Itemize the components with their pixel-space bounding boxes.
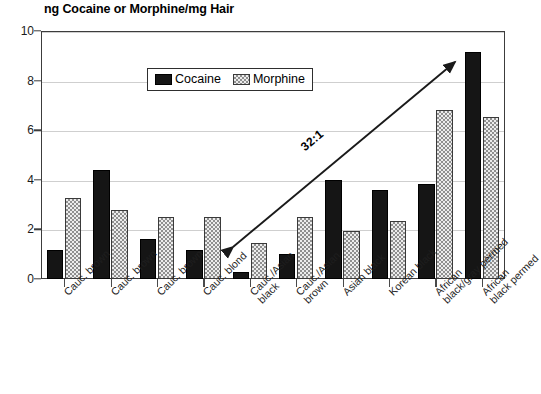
y-axis-tick-mark bbox=[34, 229, 41, 230]
y-axis-tick-mark bbox=[34, 278, 41, 279]
y-axis-tick-label: 0 bbox=[8, 272, 34, 286]
legend-item-cocaine: Cocaine bbox=[155, 72, 221, 86]
bar-cocaine-4 bbox=[233, 272, 250, 279]
bar-morphine-2 bbox=[158, 217, 175, 279]
legend-item-morphine: Morphine bbox=[233, 72, 305, 86]
y-axis-tick-label: 10 bbox=[8, 24, 34, 38]
y-axis-tick-label: 6 bbox=[8, 123, 34, 137]
checkered-swatch-icon bbox=[233, 74, 250, 85]
y-axis-tick-mark bbox=[34, 80, 41, 81]
bar-morphine-1 bbox=[111, 210, 128, 279]
legend-label-cocaine: Cocaine bbox=[175, 72, 221, 86]
y-axis-tick-mark bbox=[34, 129, 41, 130]
bar-morphine-0 bbox=[65, 198, 82, 279]
legend-label-morphine: Morphine bbox=[253, 72, 305, 86]
y-axis-tick-label: 8 bbox=[8, 74, 34, 88]
chart-legend: Cocaine Morphine bbox=[147, 68, 313, 91]
solid-black-swatch-icon bbox=[155, 74, 172, 85]
chart-title: ng Cocaine or Morphine/mg Hair bbox=[44, 2, 234, 16]
y-axis-tick-label: 4 bbox=[8, 173, 34, 187]
bar-cocaine-0 bbox=[47, 250, 64, 279]
y-axis-tick-mark bbox=[34, 30, 41, 31]
y-axis-tick-label: 2 bbox=[8, 222, 34, 236]
y-axis-tick-mark bbox=[34, 179, 41, 180]
